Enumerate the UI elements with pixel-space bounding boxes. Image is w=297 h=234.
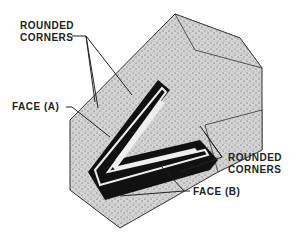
label-line: CORNERS — [20, 32, 74, 44]
label-line: CORNERS — [228, 164, 282, 176]
face-b-label: FACE (B) — [193, 186, 240, 198]
label-line: ROUNDED — [20, 20, 74, 32]
rounded-corners-label-top: ROUNDED CORNERS — [20, 20, 74, 44]
label-line: ROUNDED — [228, 152, 282, 164]
face-a-label: FACE (A) — [12, 101, 59, 113]
rounded-corners-label-right: ROUNDED CORNERS — [228, 152, 282, 176]
